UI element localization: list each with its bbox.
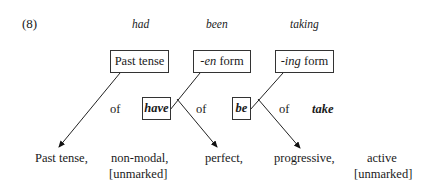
feature-perfect: perfect,	[205, 152, 243, 165]
have-box: have	[142, 97, 171, 120]
feature-non-modal: non-modal,	[111, 152, 168, 165]
en-form-box: -en form	[193, 50, 251, 73]
surface-form-taking: taking	[290, 19, 319, 31]
feature-active: active	[367, 152, 397, 165]
feature-active-sub: [unmarked]	[354, 168, 412, 181]
ing-affix-label: -ing	[281, 54, 301, 69]
ing-form-label: form	[301, 54, 328, 69]
ing-form-box: -ing form	[275, 50, 334, 73]
past-tense-box: Past tense	[110, 50, 169, 73]
take-label: take	[312, 103, 334, 116]
surface-form-been: been	[206, 19, 228, 31]
of-label-1: of	[110, 103, 120, 116]
feature-non-modal-sub: [unmarked]	[109, 168, 167, 181]
example-number: (8)	[22, 17, 37, 30]
feature-progressive: progressive,	[274, 152, 335, 165]
be-box: be	[232, 97, 251, 120]
en-form-label: form	[216, 54, 243, 69]
past-tense-label: Past tense	[115, 54, 165, 69]
of-label-2: of	[196, 103, 206, 116]
en-affix-label: -en	[200, 54, 216, 69]
be-label: be	[236, 101, 248, 116]
have-label: have	[144, 101, 168, 116]
feature-past-tense: Past tense,	[35, 152, 88, 165]
surface-form-had: had	[132, 19, 149, 31]
of-label-3: of	[279, 103, 289, 116]
